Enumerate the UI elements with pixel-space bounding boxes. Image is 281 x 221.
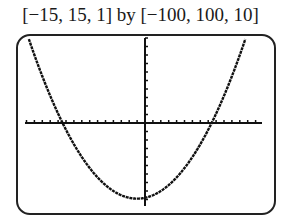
graph-plot [0,0,281,221]
parabola-curve [29,39,245,199]
